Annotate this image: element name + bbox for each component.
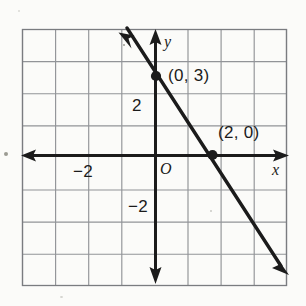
origin-label: O: [160, 161, 172, 177]
x-axis-tick-label-negative-2: −2: [73, 163, 93, 180]
point-marker-y-intercept: [151, 71, 161, 81]
y-axis-tick-label-negative-2: −2: [128, 198, 148, 215]
paper-background: [0, 0, 306, 306]
point-marker-x-intercept: [207, 150, 217, 160]
y-axis-label: y: [164, 34, 171, 50]
point-label-x-intercept: (2, 0): [218, 124, 259, 141]
x-axis-label: x: [272, 162, 279, 178]
point-label-y-intercept: (0, 3): [168, 67, 209, 84]
coordinate-plane-figure: (0, 3) (2, 0) −2 2 −2 O x y: [0, 0, 306, 306]
graph-canvas: [0, 0, 306, 306]
y-axis-tick-label-positive-2: 2: [132, 97, 142, 114]
